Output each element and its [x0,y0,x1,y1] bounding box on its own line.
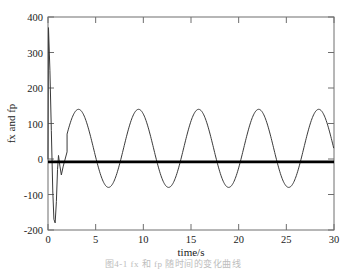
y-tick-label: -100 [24,190,43,201]
y-axis-title: fx and fp [5,103,17,143]
y-tick-label: 300 [27,48,43,59]
x-tick-label: 5 [93,234,98,245]
x-tick-label: 15 [186,234,197,245]
y-tick-label: 200 [27,83,43,94]
x-tick-label: 0 [45,234,50,245]
plot-frame [48,17,334,230]
x-tick-label: 20 [233,234,244,245]
y-tick-label: 0 [38,154,43,165]
y-tick-label: 400 [27,12,43,23]
figure-container: 400 300 200 100 0 -100 -200 0 5 10 15 20… [0,0,346,270]
y-tick-labels: 400 300 200 100 0 -100 -200 [24,12,43,236]
x-axis-title: time/s [178,246,205,258]
x-tick-labels: 0 5 10 15 20 25 30 [45,234,339,245]
y-tick-label: -200 [24,225,43,236]
plot-canvas: 400 300 200 100 0 -100 -200 0 5 10 15 20… [0,0,346,270]
x-tick-label: 30 [329,234,340,245]
x-tick-label: 10 [138,234,149,245]
x-tick-label: 25 [281,234,292,245]
y-tick-label: 100 [27,119,43,130]
figure-caption: 图4-1 fx 和 fp 随时间的变化曲线 [0,259,346,270]
